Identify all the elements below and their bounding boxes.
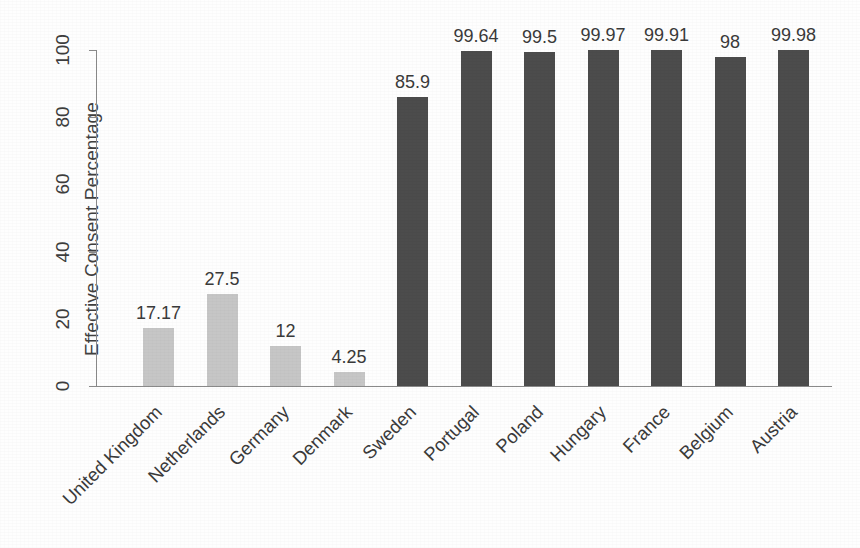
bar-rect (270, 346, 301, 386)
bar-value-label: 99.91 (644, 26, 689, 44)
bar[interactable] (397, 97, 428, 386)
bar[interactable] (270, 346, 301, 386)
bar-rect (461, 51, 492, 386)
bar-value-label: 98 (720, 33, 740, 51)
bar-value-label: 99.64 (453, 27, 498, 45)
bar[interactable] (588, 50, 619, 386)
bar-value-label: 99.98 (771, 26, 816, 44)
bar-value-label: 85.9 (395, 73, 430, 91)
bar[interactable] (778, 50, 809, 386)
bar-value-label: 12 (275, 322, 295, 340)
bar-rect (588, 50, 619, 386)
bar-rect (334, 372, 365, 386)
bar[interactable] (715, 57, 746, 386)
bar-rect (778, 50, 809, 386)
bar[interactable] (524, 52, 555, 386)
bar-rect (143, 328, 174, 386)
bar-value-label: 27.5 (204, 270, 239, 288)
bar-chart: Effective Consent Percentage 02040608010… (0, 0, 860, 548)
bar-rect (524, 52, 555, 386)
bar[interactable] (143, 328, 174, 386)
bar-value-label: 4.25 (331, 348, 366, 366)
bar-rect (651, 50, 682, 386)
bar[interactable] (651, 50, 682, 386)
bar[interactable] (334, 372, 365, 386)
bar-value-label: 17.17 (136, 304, 181, 322)
bar-value-label: 99.97 (580, 26, 625, 44)
bar-rect (397, 97, 428, 386)
bar-rect (207, 294, 238, 386)
bar-rect (715, 57, 746, 386)
bar-value-label: 99.5 (522, 28, 557, 46)
bar[interactable] (207, 294, 238, 386)
bar[interactable] (461, 51, 492, 386)
